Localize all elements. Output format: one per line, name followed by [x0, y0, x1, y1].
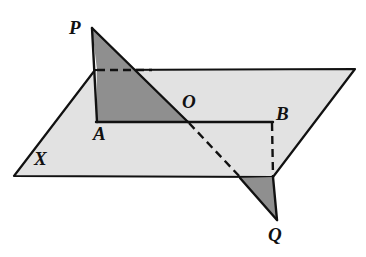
geometry-figure: P A O B X Q: [0, 0, 366, 257]
geometry-canvas: [0, 0, 366, 257]
vertex-label-A: A: [93, 124, 106, 143]
dashed-segment-B-plane-corner: [272, 123, 273, 176]
plane-label-X: X: [34, 149, 47, 168]
vertex-label-P: P: [69, 18, 81, 37]
vertex-label-B: B: [276, 104, 289, 123]
vertex-label-Q: Q: [268, 225, 282, 244]
vertex-label-O: O: [182, 92, 196, 111]
